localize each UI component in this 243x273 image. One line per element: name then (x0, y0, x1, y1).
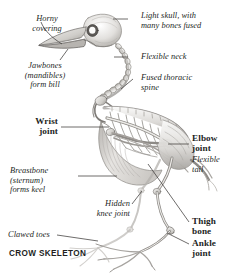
label-hidden-knee-joint: Hidden knee joint (56, 199, 130, 218)
label-light-skull: Light skull, with many bones fused (141, 11, 241, 30)
label-thigh-bone: Thigh bone (192, 216, 242, 237)
figure-caption: CROW SKELETON (9, 249, 86, 258)
label-breastbone-sternum: Breastbone (sternum) forms keel (10, 166, 80, 195)
label-flexible-neck: Flexible neck (141, 52, 236, 62)
label-fused-thoracic-spine: Fused thoracic spine (141, 73, 241, 92)
leader-ankle-joint (167, 233, 189, 244)
label-wrist-joint: Wrist joint (2, 116, 58, 137)
label-horny-covering: Horny covering (16, 14, 78, 33)
label-elbow-joint: Elbow joint (192, 133, 242, 154)
leader-fused-thoracic (121, 79, 133, 89)
leader-hidden-knee (132, 191, 142, 204)
leader-jawbones (60, 49, 68, 60)
leader-thigh-bone (148, 164, 189, 222)
label-flexible-tail: Flexible tail (192, 155, 242, 174)
label-ankle-joint: Ankle joint (192, 238, 242, 259)
label-clawed-toes: Clawed toes (8, 230, 78, 240)
label-jawbones-mandibles: Jawbones (mandibles) form bill (8, 61, 82, 90)
crow-skeleton-figure: Horny covering Jawbones (mandibles) form… (0, 0, 243, 273)
